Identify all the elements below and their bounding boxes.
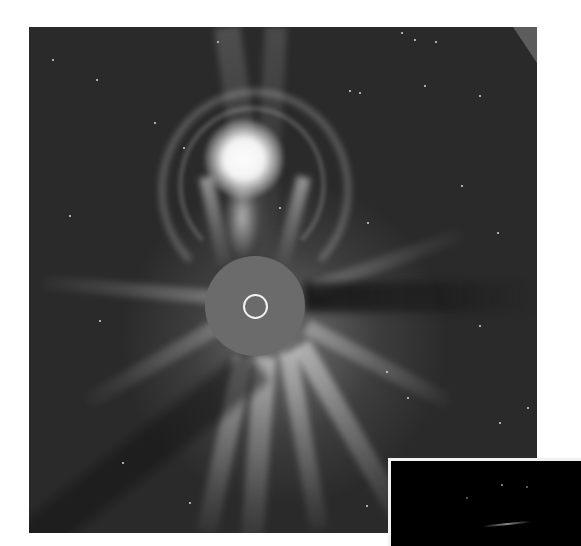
star <box>466 497 468 499</box>
corner-wedge <box>513 27 537 63</box>
star <box>461 185 463 187</box>
star <box>424 85 426 87</box>
star <box>386 371 388 373</box>
star <box>414 39 416 41</box>
comet-streak <box>483 520 531 527</box>
star <box>366 505 368 507</box>
sun-limb-circle <box>243 294 268 319</box>
star <box>217 41 219 43</box>
occulting-disk <box>205 256 305 356</box>
star <box>96 79 98 81</box>
star <box>99 320 101 322</box>
star <box>526 486 528 488</box>
star <box>479 325 481 327</box>
star <box>189 502 191 504</box>
star <box>501 484 503 486</box>
star <box>497 232 499 234</box>
star <box>154 122 156 124</box>
star <box>499 422 501 424</box>
star <box>435 41 437 43</box>
dark-band <box>304 282 534 312</box>
star <box>367 222 369 224</box>
star <box>401 32 403 34</box>
star <box>52 59 54 61</box>
star <box>359 92 361 94</box>
inset-panel <box>388 458 581 546</box>
star <box>122 462 124 464</box>
star <box>69 215 71 217</box>
star <box>183 147 185 149</box>
star <box>527 407 529 409</box>
star <box>407 397 409 399</box>
star <box>349 90 351 92</box>
star <box>479 95 481 97</box>
star <box>279 207 281 209</box>
